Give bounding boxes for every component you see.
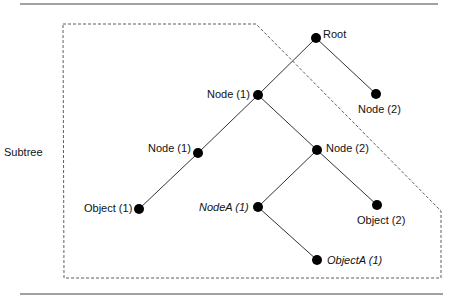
subtree-label: Subtree	[4, 146, 43, 158]
subtree-boundary	[63, 24, 441, 278]
node-node2-mid	[312, 145, 322, 155]
node-object1	[134, 204, 144, 214]
edge-node2-mid-object2	[317, 150, 377, 205]
edge-root-node2-top	[316, 38, 376, 94]
edge-node2-mid-nodeA1	[258, 150, 317, 207]
node-label-node1-top: Node (1)	[207, 88, 250, 100]
node-label-node2-top: Node (2)	[358, 103, 401, 115]
edge-nodeA1-objectA1	[258, 207, 317, 260]
tree-diagram: Subtree Root Node (2) Node (1) Node (1) …	[0, 0, 464, 296]
node-label-object1: Object (1)	[84, 202, 132, 214]
edge-root-node1-top	[258, 38, 316, 95]
node-node1-left	[193, 148, 203, 158]
node-label-objectA1: ObjectA (1)	[327, 254, 382, 266]
node-node1-top	[253, 90, 263, 100]
node-node2-top	[371, 89, 381, 99]
node-nodeA1	[253, 202, 263, 212]
node-label-root: Root	[323, 28, 346, 40]
edge-node1-left-object1	[139, 153, 198, 209]
node-label-object2: Object (2)	[357, 214, 405, 226]
edge-node1-top-node2-mid	[258, 95, 317, 150]
node-label-nodeA1: NodeA (1)	[199, 201, 249, 213]
node-object2	[372, 200, 382, 210]
node-objectA1	[312, 255, 322, 265]
node-label-node2-mid: Node (2)	[326, 142, 369, 154]
node-label-node1-left: Node (1)	[148, 142, 191, 154]
node-root	[311, 33, 321, 43]
diagram-svg	[0, 0, 464, 296]
edge-node1-top-node1-left	[198, 95, 258, 153]
